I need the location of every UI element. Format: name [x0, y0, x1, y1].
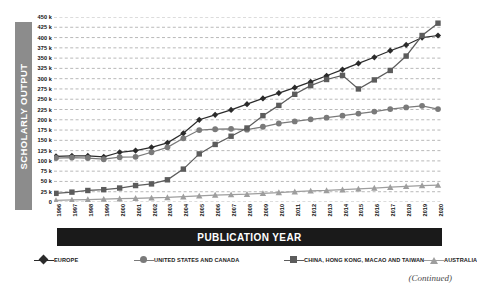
data-point-marker [372, 77, 377, 82]
x-tick-label: 1999 [104, 204, 116, 210]
x-tick-label: 2002 [152, 204, 164, 210]
data-point-marker [181, 166, 186, 171]
series-triangle [54, 182, 441, 202]
data-point-marker [356, 111, 362, 117]
legend-marker-circle-icon [134, 255, 154, 265]
series-line [56, 23, 438, 193]
y-tick-label: 350 k [38, 55, 53, 61]
x-tick-label: 2001 [136, 204, 148, 210]
series-diamond [54, 32, 441, 159]
data-point-marker [212, 142, 217, 147]
data-point-marker [228, 107, 234, 113]
x-tick-label: 1996 [56, 204, 68, 210]
legend-label: UNITED STATES AND CANADA [154, 257, 239, 263]
x-tick-label: 2004 [183, 204, 195, 210]
data-point-marker [228, 134, 233, 139]
data-point-marker [117, 185, 122, 190]
x-tick-label: 2003 [167, 204, 179, 210]
x-tick-label: 2007 [231, 204, 243, 210]
data-point-marker [260, 95, 266, 101]
data-point-marker [403, 105, 409, 111]
y-axis-tick-labels: 025 k50 k75 k100 k125 k150 k175 k200 k22… [26, 17, 52, 202]
y-tick-label: 200 k [38, 117, 53, 123]
data-point-marker [101, 187, 106, 192]
data-point-marker [244, 125, 249, 130]
data-point-marker [403, 42, 409, 48]
data-point-marker [308, 83, 313, 88]
data-point-marker [292, 85, 298, 91]
legend-marker-square-icon [284, 255, 304, 265]
data-point-marker [69, 189, 74, 194]
series-square [54, 20, 441, 196]
data-point-marker [371, 54, 377, 60]
data-point-marker [292, 119, 298, 125]
y-tick-label: 75 k [41, 168, 52, 174]
data-point-marker [308, 116, 314, 122]
y-tick-label: 0 [49, 199, 52, 205]
data-point-marker [244, 101, 250, 107]
data-point-marker [165, 144, 171, 150]
x-tick-label: 2012 [311, 204, 323, 210]
continued-note: (Continued) [409, 273, 453, 283]
data-point-marker [419, 33, 424, 38]
y-tick-label: 425 k [38, 24, 53, 30]
y-tick-label: 175 k [38, 127, 53, 133]
data-point-marker [276, 103, 281, 108]
data-point-marker [54, 191, 59, 196]
data-point-marker [133, 154, 139, 160]
data-point-marker [196, 127, 202, 133]
data-point-marker [260, 113, 265, 118]
legend-item-2[interactable]: UNITED STATES AND CANADA [134, 254, 239, 266]
x-axis-title: PUBLICATION YEAR [197, 232, 301, 243]
y-tick-label: 100 k [38, 158, 53, 164]
x-tick-label: 2006 [215, 204, 227, 210]
data-point-marker [340, 113, 346, 119]
legend-label: EUROPE [54, 257, 78, 263]
legend-marker-triangle-icon [424, 255, 444, 265]
x-tick-label: 2017 [390, 204, 402, 210]
data-point-marker [69, 155, 75, 161]
y-tick-label: 325 k [38, 65, 53, 71]
x-axis-title-bar: PUBLICATION YEAR [57, 228, 442, 246]
plot-area [54, 17, 442, 202]
data-point-marker [356, 86, 361, 91]
data-point-marker [85, 155, 91, 161]
data-point-marker [228, 126, 234, 132]
data-point-marker [324, 77, 329, 82]
data-point-marker [101, 156, 107, 162]
x-tick-label: 2000 [120, 204, 132, 210]
data-point-marker [435, 20, 440, 25]
legend-item-4[interactable]: AUSTRALIA [424, 254, 477, 266]
data-point-marker [340, 73, 345, 78]
legend-item-3[interactable]: CHINA, HONG KONG, MACAO AND TAIWAN [284, 254, 424, 266]
data-point-marker [85, 188, 90, 193]
x-tick-label: 2019 [422, 204, 434, 210]
x-tick-label: 1997 [72, 204, 84, 210]
data-point-marker [133, 183, 138, 188]
x-tick-label: 2009 [263, 204, 275, 210]
x-tick-label: 2016 [374, 204, 386, 210]
y-tick-label: 400 k [38, 35, 53, 41]
data-point-marker [387, 48, 393, 54]
x-tick-label: 2018 [406, 204, 418, 210]
series-canvas [54, 17, 442, 202]
y-tick-label: 250 k [38, 96, 53, 102]
x-tick-label: 2011 [295, 204, 307, 210]
data-point-marker [371, 109, 377, 115]
legend-item-1[interactable]: EUROPE [34, 254, 78, 266]
y-tick-label: 450 k [38, 14, 53, 20]
x-tick-label: 2005 [199, 204, 211, 210]
data-point-marker [212, 112, 218, 118]
x-tick-label: 2020 [438, 204, 450, 210]
data-point-marker [276, 90, 282, 96]
data-point-marker [292, 92, 297, 97]
data-point-marker [355, 60, 361, 66]
y-tick-label: 375 k [38, 45, 53, 51]
data-point-marker [149, 149, 155, 155]
data-point-marker [324, 115, 330, 121]
data-point-marker [54, 197, 59, 202]
data-point-marker [435, 106, 441, 112]
data-point-marker [260, 124, 266, 130]
data-point-marker [419, 103, 425, 109]
